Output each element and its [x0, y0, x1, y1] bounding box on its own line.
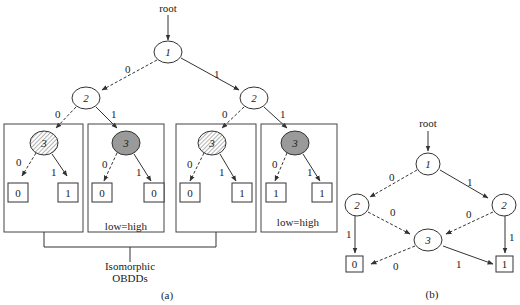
isomorphic-label: Isomorphic: [105, 260, 155, 272]
figure-b: root 1 0 1 2 2 0 0 1 1 3 0: [345, 117, 516, 301]
svg-text:0: 0: [393, 260, 399, 272]
svg-text:1: 1: [456, 258, 462, 270]
node-2-left: 2: [345, 194, 369, 216]
svg-text:2: 2: [354, 199, 360, 211]
svg-text:1: 1: [111, 108, 117, 120]
node-2-right: 2: [240, 87, 268, 109]
svg-text:3: 3: [208, 137, 215, 149]
subgraph-box-3: 3 0 1 0 1: [176, 124, 256, 232]
edge-label-0: 0: [125, 63, 131, 75]
svg-text:1: 1: [273, 187, 279, 199]
svg-text:3: 3: [291, 137, 298, 149]
node-3: 3: [414, 229, 442, 251]
obdd-figure: root 1 0 1 2 2 0 1 0 1: [0, 0, 520, 305]
node-1: 1: [154, 41, 182, 63]
svg-text:0: 0: [55, 108, 61, 120]
caption-a: (a): [161, 289, 174, 302]
root-label: root: [419, 117, 437, 129]
edge-low: [22, 153, 36, 176]
svg-text:0: 0: [102, 158, 108, 170]
node-2-right: 2: [492, 194, 516, 216]
svg-text:1: 1: [502, 258, 508, 270]
edge-2l-low: [368, 212, 410, 234]
edge-label-1: 1: [214, 68, 220, 80]
edge-1-to-2-right-high: [181, 58, 239, 90]
svg-text:2: 2: [83, 92, 89, 104]
low-high-label-1: low=high: [105, 220, 148, 232]
svg-text:1: 1: [51, 166, 57, 178]
svg-text:1: 1: [280, 108, 286, 120]
svg-text:1: 1: [136, 166, 142, 178]
figure-a: root 1 0 1 2 2 0 1 0 1: [4, 2, 337, 302]
svg-text:0: 0: [222, 108, 228, 120]
edge-1-high: [440, 170, 488, 198]
svg-text:0: 0: [15, 187, 21, 199]
svg-text:0: 0: [151, 187, 157, 199]
terminal-1: 1: [496, 256, 513, 272]
node-1: 1: [416, 153, 440, 175]
svg-text:0: 0: [99, 187, 105, 199]
root-label: root: [159, 2, 177, 14]
svg-text:1: 1: [346, 228, 352, 240]
svg-text:2: 2: [251, 92, 257, 104]
svg-text:1: 1: [219, 166, 225, 178]
svg-text:3: 3: [122, 137, 129, 149]
svg-text:1: 1: [165, 46, 171, 58]
svg-text:0: 0: [187, 158, 193, 170]
terminal-0: 0: [346, 256, 363, 272]
obdds-label: OBDDs: [112, 272, 147, 284]
svg-text:1: 1: [307, 166, 313, 178]
svg-text:0: 0: [187, 187, 193, 199]
svg-text:0: 0: [16, 156, 22, 168]
svg-text:0: 0: [352, 258, 358, 270]
svg-text:3: 3: [424, 234, 431, 246]
subgraph-box-1: 3 0 1 0 1: [4, 124, 83, 232]
svg-text:0: 0: [390, 206, 396, 218]
edge-3-high: [443, 246, 493, 264]
caption-b: (b): [426, 288, 439, 301]
svg-text:2: 2: [501, 199, 507, 211]
svg-text:1: 1: [509, 231, 515, 243]
isomorphic-bracket: [44, 232, 216, 247]
svg-text:1: 1: [467, 176, 473, 188]
svg-text:1: 1: [319, 187, 325, 199]
svg-text:0: 0: [466, 208, 472, 220]
svg-text:3: 3: [40, 137, 47, 149]
svg-text:1: 1: [425, 158, 431, 170]
svg-text:0: 0: [389, 171, 395, 183]
low-high-label-2: low=high: [277, 216, 320, 228]
svg-text:1: 1: [239, 187, 245, 199]
svg-text:0: 0: [272, 158, 278, 170]
subgraph-box-2: 3 0 1 0 0: [88, 124, 164, 232]
svg-text:1: 1: [65, 187, 71, 199]
node-2-left: 2: [72, 87, 100, 109]
